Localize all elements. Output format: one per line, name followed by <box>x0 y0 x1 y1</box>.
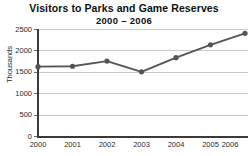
series-markers-visitors <box>35 31 247 75</box>
series-line-visitors <box>38 33 245 72</box>
data-point-2003 <box>139 69 144 74</box>
series-layer <box>0 0 248 156</box>
data-point-2006 <box>242 31 247 36</box>
data-point-2000 <box>35 64 40 69</box>
chart-figure: Visitors to Parks and Game Reserves 2000… <box>0 0 248 156</box>
data-point-2004 <box>173 55 178 60</box>
data-point-2005 <box>208 42 213 47</box>
data-point-2001 <box>70 64 75 69</box>
data-point-2002 <box>104 59 109 64</box>
